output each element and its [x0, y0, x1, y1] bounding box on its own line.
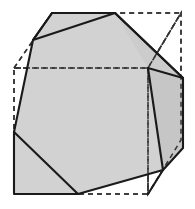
geometry-diagram [0, 0, 195, 209]
figure-container [0, 0, 195, 209]
